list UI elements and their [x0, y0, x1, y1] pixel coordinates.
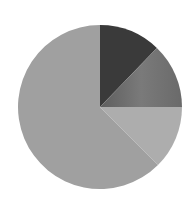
pie-slices — [18, 25, 182, 189]
pie-chart — [0, 0, 196, 209]
pie-chart-svg — [0, 0, 196, 209]
